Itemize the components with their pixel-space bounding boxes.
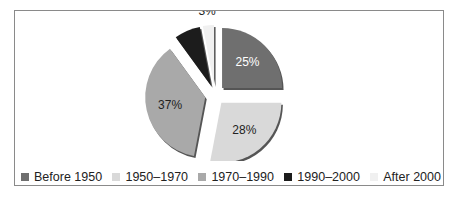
legend-label: 1990–2000 [297, 170, 360, 184]
legend-item-1950-1970: 1950–1970 [112, 169, 188, 185]
slice-label: 37% [158, 98, 182, 112]
legend-swatch [112, 173, 120, 181]
legend-item-after-2000: After 2000 [370, 169, 441, 185]
slice-label: 28% [232, 123, 256, 137]
slice-label: 3% [198, 11, 216, 18]
chart-frame: 25%28%37%3% Before 1950 1950–1970 1970–1… [14, 10, 444, 186]
slice-label: 25% [236, 55, 260, 69]
legend-label: After 2000 [383, 170, 441, 184]
legend-swatch [198, 173, 206, 181]
pie-chart: 25%28%37%3% [15, 11, 445, 161]
legend-item-1970-1990: 1970–1990 [198, 169, 274, 185]
legend-label: 1970–1990 [211, 170, 274, 184]
legend-swatch [21, 173, 29, 181]
legend-label: 1950–1970 [125, 170, 188, 184]
legend-item-before-1950: Before 1950 [21, 169, 102, 185]
legend: Before 1950 1950–1970 1970–1990 1990–200… [21, 169, 441, 185]
legend-item-1990-2000: 1990–2000 [284, 169, 360, 185]
legend-swatch [284, 173, 292, 181]
legend-swatch [370, 173, 378, 181]
legend-label: Before 1950 [34, 170, 102, 184]
